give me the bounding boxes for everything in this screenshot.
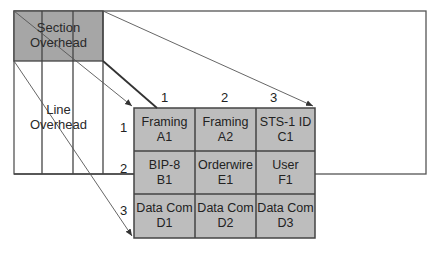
row-number-1: 1 <box>120 120 127 135</box>
section-overhead-label: Section Overhead <box>14 20 103 50</box>
column-number-2: 2 <box>221 90 228 105</box>
column-number-1: 1 <box>161 90 168 105</box>
arrow-top-right <box>103 11 313 106</box>
cell-d3: Data ComD3 <box>256 194 315 238</box>
cell-d2: Data ComD2 <box>195 194 256 238</box>
cell-f1: UserF1 <box>256 151 315 194</box>
row-number-2: 2 <box>120 161 127 176</box>
line-section-bottom <box>103 61 157 108</box>
cell-d1: Data ComD1 <box>134 194 195 238</box>
cell-b1: BIP-8B1 <box>134 151 195 194</box>
line-overhead-label: Line Overhead <box>14 102 103 132</box>
cell-e1: OrderwireE1 <box>195 151 256 194</box>
cell-a2: FramingA2 <box>195 108 256 151</box>
cell-c1: STS-1 IDC1 <box>256 108 315 151</box>
column-number-3: 3 <box>270 90 277 105</box>
row-number-3: 3 <box>120 203 127 218</box>
cell-a1: FramingA1 <box>134 108 195 151</box>
